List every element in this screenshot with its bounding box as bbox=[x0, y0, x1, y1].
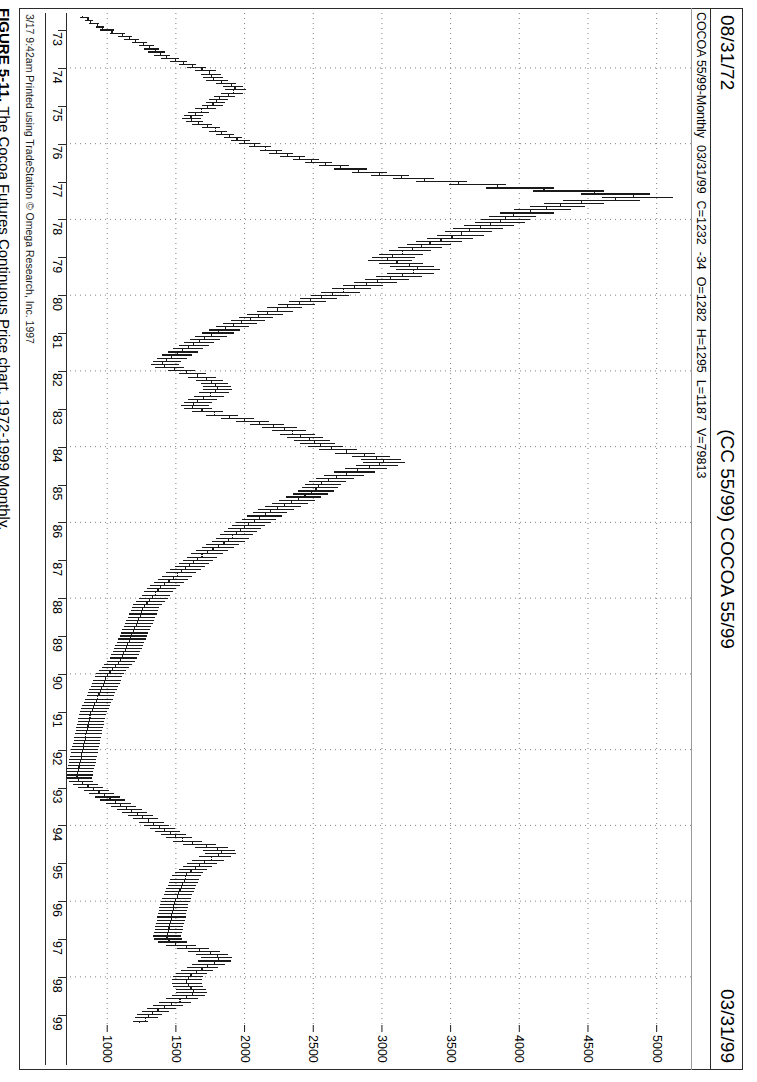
year-label: 78 bbox=[49, 221, 65, 235]
year-tick bbox=[58, 371, 66, 372]
price-tick-label: 2000 bbox=[238, 1035, 252, 1063]
start-date-label: 08/31/72 bbox=[716, 8, 738, 163]
year-label: 89 bbox=[49, 638, 65, 652]
year-tick bbox=[58, 522, 66, 523]
year-tick bbox=[58, 560, 66, 561]
year-tick bbox=[58, 977, 66, 978]
year-tick bbox=[58, 1015, 66, 1016]
quote-high: H=1295 bbox=[695, 329, 709, 373]
year-label: 77 bbox=[49, 184, 65, 198]
year-label: 86 bbox=[49, 524, 65, 538]
year-label: 84 bbox=[49, 449, 65, 463]
tradestation-chart-window: 08/31/72 (CC 55/99) COCOA 55/99 03/31/99… bbox=[19, 8, 743, 1070]
year-label: 76 bbox=[49, 146, 65, 160]
price-tick-label: 3500 bbox=[444, 1035, 458, 1063]
price-axis-ticks: 500045004000350030002500200015001000 bbox=[66, 1025, 691, 1065]
year-label: 92 bbox=[49, 752, 65, 766]
price-tick-label: 3000 bbox=[375, 1035, 389, 1063]
year-label: 95 bbox=[49, 865, 65, 879]
year-tick bbox=[58, 712, 66, 713]
quote-change: -34 bbox=[695, 252, 709, 270]
year-label: 75 bbox=[49, 108, 65, 122]
year-label: 93 bbox=[49, 790, 65, 804]
quote-low: L=1187 bbox=[695, 380, 709, 421]
year-label: 79 bbox=[49, 259, 65, 273]
year-tick bbox=[58, 106, 66, 107]
year-tick bbox=[58, 485, 66, 486]
year-tick bbox=[58, 295, 66, 296]
year-label: 73 bbox=[49, 32, 65, 46]
year-label: 94 bbox=[49, 827, 65, 841]
chart-titlebar: 08/31/72 (CC 55/99) COCOA 55/99 03/31/99 bbox=[710, 8, 743, 1070]
end-date-label: 03/31/99 bbox=[716, 915, 738, 1070]
year-label: 82 bbox=[49, 373, 65, 387]
year-label: 99 bbox=[49, 1017, 65, 1031]
price-tick-label: 2500 bbox=[306, 1035, 320, 1063]
quote-info-bar: COCOA 55/99-Monthly 03/31/99 C=1232 -34 … bbox=[691, 8, 711, 1070]
year-tick bbox=[58, 257, 66, 258]
year-tick bbox=[58, 182, 66, 183]
year-tick bbox=[58, 68, 66, 69]
quote-close: C=1232 bbox=[695, 201, 709, 245]
price-tick-label: 1500 bbox=[169, 1035, 183, 1063]
quote-open: O=1282 bbox=[695, 277, 709, 322]
year-tick bbox=[58, 409, 66, 410]
year-tick bbox=[58, 30, 66, 31]
date-axis: 7374757677787980818283848586878889909192… bbox=[45, 13, 67, 1065]
ohlc-plot bbox=[66, 13, 691, 1028]
year-tick bbox=[58, 219, 66, 220]
figure-number: FIGURE 5-11. bbox=[0, 8, 13, 102]
year-label: 90 bbox=[49, 676, 65, 690]
year-tick bbox=[58, 825, 66, 826]
year-tick bbox=[58, 674, 66, 675]
chart-page: 08/31/72 (CC 55/99) COCOA 55/99 03/31/99… bbox=[0, 0, 757, 1082]
year-tick bbox=[58, 750, 66, 751]
year-tick bbox=[58, 333, 66, 334]
year-label: 91 bbox=[49, 714, 65, 728]
year-tick bbox=[58, 788, 66, 789]
print-footer: 3/17 9:42am Printed using TradeStation ©… bbox=[24, 14, 36, 344]
year-tick bbox=[58, 939, 66, 940]
year-tick bbox=[58, 598, 66, 599]
year-label: 87 bbox=[49, 562, 65, 576]
chart-title: (CC 55/99) COCOA 55/99 bbox=[716, 163, 738, 915]
year-label: 74 bbox=[49, 70, 65, 84]
price-tick-label: 1000 bbox=[100, 1035, 114, 1063]
year-label: 97 bbox=[49, 941, 65, 955]
year-label: 81 bbox=[49, 335, 65, 349]
figure-caption-text: The Cocoa Futures Continuous Price chart… bbox=[0, 106, 13, 530]
quote-volume: V=79813 bbox=[695, 428, 709, 478]
symbol-label: COCOA 55/99-Monthly bbox=[695, 12, 709, 138]
year-tick bbox=[58, 863, 66, 864]
year-label: 96 bbox=[49, 903, 65, 917]
price-tick-label: 4500 bbox=[581, 1035, 595, 1063]
price-tick-label: 4000 bbox=[512, 1035, 526, 1063]
year-tick bbox=[58, 447, 66, 448]
year-tick bbox=[58, 144, 66, 145]
price-axis: 500045004000350030002500200015001000 bbox=[66, 1025, 691, 1065]
year-label: 83 bbox=[49, 411, 65, 425]
price-plot-area bbox=[66, 13, 691, 1028]
year-label: 85 bbox=[49, 487, 65, 501]
quote-date: 03/31/99 bbox=[695, 145, 709, 194]
rotated-chart-stage: 08/31/72 (CC 55/99) COCOA 55/99 03/31/99… bbox=[0, 0, 757, 1082]
year-label: 88 bbox=[49, 600, 65, 614]
figure-caption: FIGURE 5-11. The Cocoa Futures Continuou… bbox=[0, 8, 13, 531]
year-label: 98 bbox=[49, 979, 65, 993]
year-tick bbox=[58, 636, 66, 637]
year-tick bbox=[58, 901, 66, 902]
year-label: 80 bbox=[49, 297, 65, 311]
price-tick-label: 5000 bbox=[650, 1035, 664, 1063]
